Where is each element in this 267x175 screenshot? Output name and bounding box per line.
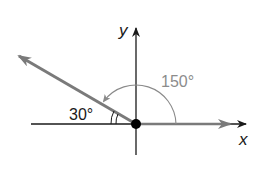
origin-point [131, 119, 141, 129]
angle-diagram: y x 150° 30° [0, 0, 267, 175]
angle-label-30: 30° [69, 106, 93, 123]
angle-arc-150 [104, 85, 176, 124]
reference-angle-mark [116, 114, 118, 124]
angle-label-150: 150° [161, 73, 194, 90]
y-axis-label: y [118, 21, 129, 40]
reference-angle-mark [111, 111, 114, 124]
x-axis-label: x [238, 130, 248, 149]
